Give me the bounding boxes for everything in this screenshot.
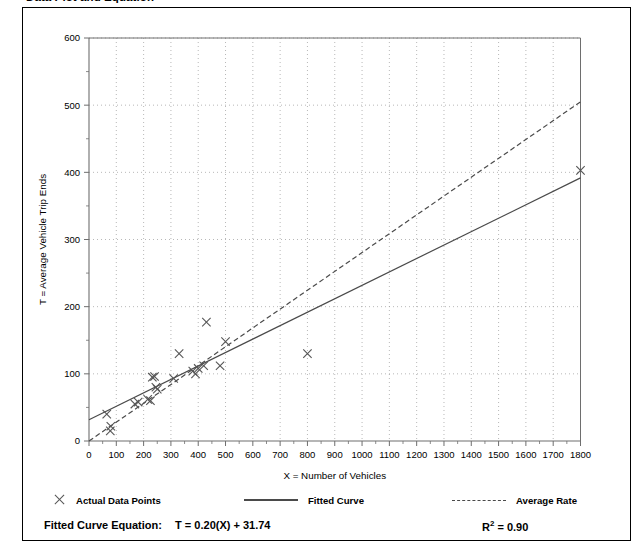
svg-text:0: 0 <box>75 435 80 446</box>
x-axis-tick-labels: 0100200300400500600700800900100011001200… <box>86 449 591 460</box>
svg-text:400: 400 <box>64 167 80 178</box>
svg-text:1100: 1100 <box>379 449 399 460</box>
gridlines <box>89 38 581 441</box>
svg-text:1800: 1800 <box>570 449 591 460</box>
equation-prefix: Fitted Curve Equation: <box>44 519 162 531</box>
svg-text:600: 600 <box>245 449 261 460</box>
svg-text:1300: 1300 <box>433 449 454 460</box>
x-axis-title: X = Number of Vehicles <box>283 470 386 481</box>
legend-label-actual-data-points: Actual Data Points <box>76 495 161 506</box>
svg-text:1200: 1200 <box>406 449 427 460</box>
svg-text:700: 700 <box>272 449 288 460</box>
fitted-curve-equation: Fitted Curve Equation: T = 0.20(X) + 31.… <box>44 519 270 531</box>
svg-text:1700: 1700 <box>543 449 564 460</box>
svg-text:600: 600 <box>64 32 80 43</box>
data-points <box>103 166 585 435</box>
equation-formula: T = 0.20(X) + 31.74 <box>175 519 270 531</box>
r-squared-number: = 0.90 <box>497 521 528 533</box>
svg-text:500: 500 <box>64 100 80 111</box>
chart-legend: Actual Data Points Fitted Curve Average … <box>22 487 631 513</box>
solid-line-icon <box>244 499 298 500</box>
svg-text:1400: 1400 <box>461 449 482 460</box>
svg-text:300: 300 <box>163 449 179 460</box>
plot-area: 0100200300400500600 01002003004005006007… <box>0 0 636 549</box>
svg-text:1500: 1500 <box>488 449 509 460</box>
svg-text:100: 100 <box>108 449 124 460</box>
x-marker-icon <box>52 492 68 508</box>
svg-text:200: 200 <box>136 449 152 460</box>
legend-label-average-rate: Average Rate <box>516 495 577 506</box>
svg-text:1600: 1600 <box>515 449 536 460</box>
equation-row: Fitted Curve Equation: T = 0.20(X) + 31.… <box>22 516 631 541</box>
svg-text:500: 500 <box>218 449 234 460</box>
legend-item-fitted-curve: Fitted Curve <box>244 487 364 513</box>
y-axis-tick-labels: 0100200300400500600 <box>64 32 80 446</box>
svg-text:800: 800 <box>300 449 316 460</box>
r-squared-value: R2 = 0.90 <box>482 519 528 533</box>
legend-label-fitted-curve: Fitted Curve <box>308 495 364 506</box>
svg-text:900: 900 <box>327 449 343 460</box>
svg-text:300: 300 <box>64 234 80 245</box>
svg-text:1000: 1000 <box>351 449 372 460</box>
y-axis-title: T = Average Vehicle Trip Ends <box>37 174 48 305</box>
svg-text:0: 0 <box>86 449 91 460</box>
dashed-line-icon <box>452 500 506 501</box>
svg-text:200: 200 <box>64 301 80 312</box>
r-squared-symbol: R <box>482 521 490 533</box>
legend-item-actual-data-points: Actual Data Points <box>52 487 161 513</box>
svg-text:100: 100 <box>64 368 80 379</box>
legend-item-average-rate: Average Rate <box>452 487 577 513</box>
r-squared-exponent: 2 <box>490 519 494 528</box>
scatter-plot-svg: 0100200300400500600 01002003004005006007… <box>0 0 636 549</box>
chart-page: Data Plot and Equation 01002003004005006… <box>0 0 636 549</box>
svg-text:400: 400 <box>190 449 206 460</box>
